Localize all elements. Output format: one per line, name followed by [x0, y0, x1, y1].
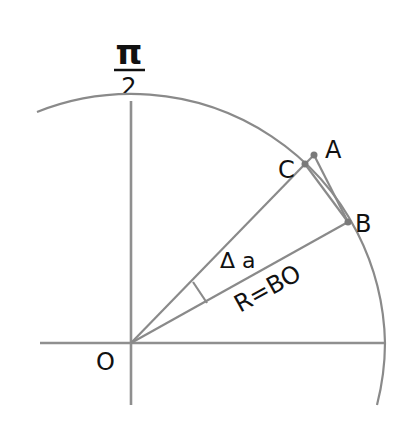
label-origin: O [96, 348, 115, 376]
tangent-ab [314, 155, 348, 222]
angle-marker [193, 282, 207, 303]
label-c: C [278, 156, 295, 184]
label-angle: Δ a [220, 248, 256, 273]
ray-ob [131, 222, 348, 343]
unit-circle-diagram: π 2 A C B O Δ a R=BO [0, 0, 408, 434]
pi-numerator: π [116, 32, 143, 72]
pi-denominator: 2 [121, 73, 136, 101]
chord-cb [305, 164, 348, 222]
label-a: A [325, 136, 342, 164]
point-a [311, 152, 318, 159]
label-b: B [355, 210, 371, 238]
ray-oc [131, 164, 305, 343]
point-b [345, 219, 352, 226]
point-c [302, 161, 309, 168]
